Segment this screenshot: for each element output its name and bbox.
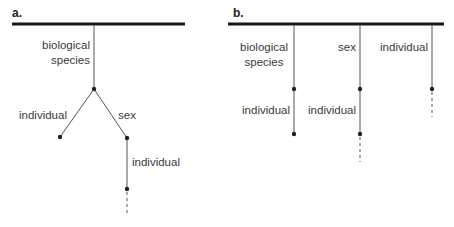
node-dot (292, 87, 296, 91)
node-dot (292, 132, 296, 136)
panel-a-right-branch-label: sex (118, 108, 136, 123)
label-line: species (238, 55, 290, 70)
node-dot (358, 87, 362, 91)
panel-a-left-branch-label: individual (19, 108, 67, 123)
node-dot (125, 136, 129, 140)
node-dot (92, 87, 96, 91)
label-line: species (38, 53, 90, 68)
panel-a-root-label: biological species (38, 38, 90, 68)
panel-b-col3-top-label: individual (370, 40, 428, 55)
panel-a-right-child-label: individual (132, 155, 180, 170)
node-dot (58, 135, 62, 139)
panel-b-col1-top-label: biological species (238, 40, 290, 70)
node-dot (125, 187, 129, 191)
diagram-canvas (0, 0, 454, 227)
label-line: biological (38, 38, 90, 53)
panel-a-label: a. (12, 6, 22, 20)
panel-b-col2-top-label: sex (320, 40, 356, 55)
panel-b-col2-bottom-label: individual (302, 103, 356, 118)
node-dot (358, 132, 362, 136)
node-dot (430, 87, 434, 91)
label-line: biological (238, 40, 290, 55)
panel-a-nodes (58, 87, 129, 191)
panel-b-label: b. (233, 6, 244, 20)
panel-b-col1-bottom-label: individual (236, 103, 290, 118)
